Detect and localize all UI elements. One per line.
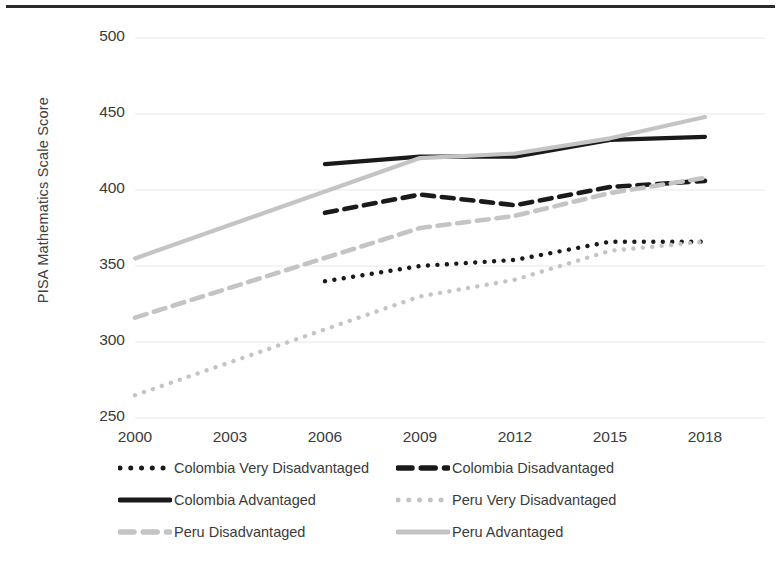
- legend-label: Colombia Disadvantaged: [452, 460, 614, 476]
- legend-line-swatch-icon: [118, 523, 172, 541]
- legend-entry[interactable]: Colombia Advantaged: [118, 484, 316, 516]
- legend-label: Colombia Very Disadvantaged: [174, 460, 369, 476]
- legend-label: Colombia Advantaged: [174, 492, 316, 508]
- legend-entry[interactable]: Peru Advantaged: [396, 516, 563, 548]
- legend-entry[interactable]: Colombia Very Disadvantaged: [118, 452, 369, 484]
- legend-line-swatch-icon: [118, 491, 172, 509]
- legend-line-swatch-icon: [118, 459, 172, 477]
- series-line: [325, 242, 705, 282]
- legend-entry[interactable]: Colombia Disadvantaged: [396, 452, 614, 484]
- series-line: [325, 137, 705, 164]
- series-line: [325, 181, 705, 213]
- pisa-math-scores-chart: PISA Mathematics Scale Score 25030035040…: [0, 0, 781, 561]
- legend-line-swatch-icon: [396, 491, 450, 509]
- legend-entry[interactable]: Peru Very Disadvantaged: [396, 484, 616, 516]
- legend-line-swatch-icon: [396, 459, 450, 477]
- legend-label: Peru Disadvantaged: [174, 524, 305, 540]
- legend-label: Peru Very Disadvantaged: [452, 492, 616, 508]
- legend-label: Peru Advantaged: [452, 524, 563, 540]
- chart-legend: Colombia Very DisadvantagedColombia Disa…: [118, 452, 678, 548]
- legend-line-swatch-icon: [396, 523, 450, 541]
- legend-entry[interactable]: Peru Disadvantaged: [118, 516, 305, 548]
